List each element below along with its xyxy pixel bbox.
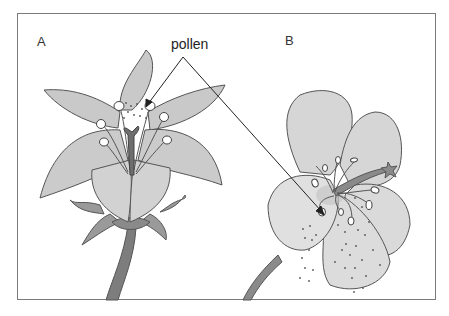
pollen-label: pollen: [171, 36, 208, 52]
flower-illustration: [0, 0, 449, 316]
flower-b-label: B: [285, 33, 294, 48]
flower-b: [243, 91, 410, 300]
flower-a-label: A: [37, 34, 46, 49]
flower-a: [40, 50, 225, 300]
